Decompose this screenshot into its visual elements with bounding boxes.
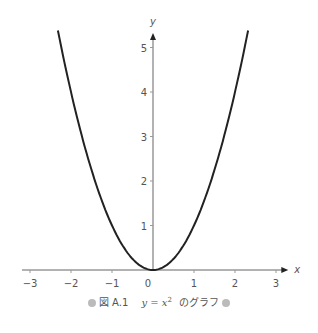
- x-tick-label: −3: [23, 278, 38, 289]
- y-tick-label: 1: [141, 221, 147, 232]
- y-tick-label: 5: [141, 43, 147, 54]
- parabola-chart: xy−3−2−1012312345: [0, 0, 318, 333]
- x-tick-label: −1: [105, 278, 120, 289]
- y-axis-label: y: [149, 16, 157, 27]
- y-tick-label: 2: [141, 176, 147, 187]
- caption-suffix: のグラフ: [179, 297, 219, 308]
- x-axis-label: x: [293, 264, 300, 275]
- y-axis-arrow-icon: [150, 33, 156, 40]
- x-axis-arrow-icon: [281, 267, 288, 273]
- y-tick-label: 3: [141, 132, 147, 143]
- caption-dot-right-icon: [222, 299, 230, 307]
- x-tick-label: 2: [232, 278, 238, 289]
- figure-caption: 図 A.1 y = x2 のグラフ: [0, 294, 318, 309]
- x-tick-label: −2: [64, 278, 79, 289]
- x-tick-label: 1: [191, 278, 197, 289]
- y-tick-label: 4: [141, 87, 147, 98]
- caption-prefix: 図 A.1: [99, 297, 128, 308]
- x-tick-label: 3: [273, 278, 279, 289]
- caption-dot-left-icon: [88, 299, 96, 307]
- x-tick-label: 0: [145, 278, 151, 289]
- axes: [22, 33, 288, 273]
- caption-equation: y = x2: [141, 297, 172, 308]
